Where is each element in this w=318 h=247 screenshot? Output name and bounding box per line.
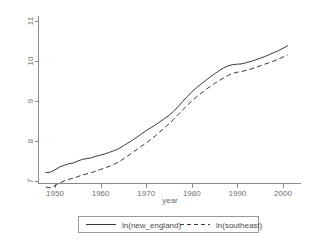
y-tick-label: 11 [26, 16, 35, 25]
y-tick-label: 9 [26, 98, 35, 103]
x-axis: 195019601970198019902000 year [39, 184, 302, 206]
x-tick-label: 1950 [46, 189, 64, 198]
series-group [46, 46, 288, 188]
y-tick-group [35, 22, 39, 182]
x-tick-label: 2000 [274, 189, 292, 198]
y-tick-label: 10 [26, 56, 35, 65]
x-tick-label: 1990 [229, 189, 247, 198]
legend: ln(new_england) ln(southeast) [79, 217, 263, 233]
line-chart: 7891011 195019601970198019902000 year ln… [0, 0, 318, 247]
y-tick-label: 7 [26, 178, 35, 183]
legend-label-new-england: ln(new_england) [122, 221, 181, 230]
series-line-southeast [46, 55, 288, 188]
x-tick-label: 1970 [137, 189, 155, 198]
y-tick-label: 8 [26, 138, 35, 143]
legend-label-southeast: ln(southeast) [216, 221, 263, 230]
x-tick-group [56, 184, 284, 188]
series-line-new-england [46, 46, 288, 173]
x-tick-label: 1980 [183, 189, 201, 198]
chart-container: 7891011 195019601970198019902000 year ln… [0, 0, 318, 247]
y-tick-label-group: 7891011 [26, 16, 35, 183]
x-tick-label: 1960 [92, 189, 110, 198]
y-axis: 7891011 [26, 16, 39, 184]
x-axis-title: year [162, 196, 178, 205]
